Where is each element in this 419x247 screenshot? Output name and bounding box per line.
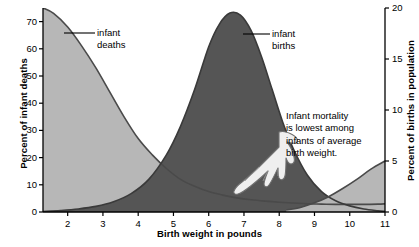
y-right-tick-label-5: 5 [392, 155, 412, 166]
infant-mortality-birth-weight-chart: Percent of infant deaths Percent of birt… [0, 0, 419, 247]
annotation-line2: is lowest among [286, 122, 390, 134]
x-tick-label-2: 2 [54, 218, 82, 229]
y-left-tick-label-10: 10 [9, 179, 37, 190]
y-axis-left-title: Percent of infant deaths [18, 39, 29, 189]
x-tick-label-4: 4 [124, 218, 152, 229]
callout-infant-births-line1: infant [272, 28, 295, 40]
x-tick-label-8: 8 [265, 218, 293, 229]
annotation-line3: infants of average [286, 135, 390, 147]
callout-infant-deaths: infant deaths [97, 27, 126, 50]
y-left-tick-label-70: 70 [9, 16, 37, 27]
y-left-tick-label-40: 40 [9, 97, 37, 108]
callout-infant-births-line2: births [272, 40, 295, 52]
x-tick-label-3: 3 [89, 218, 117, 229]
x-tick-label-9: 9 [300, 218, 328, 229]
y-left-tick-label-50: 50 [9, 70, 37, 81]
callout-infant-deaths-line1: infant [97, 27, 126, 39]
y-right-tick-label-0: 0 [392, 206, 412, 217]
y-right-tick-label-15: 15 [392, 53, 412, 64]
y-left-tick-label-20: 20 [9, 152, 37, 163]
y-left-tick-label-0: 0 [9, 206, 37, 217]
x-tick-label-6: 6 [195, 218, 223, 229]
callout-infant-births: infant births [272, 28, 295, 51]
x-tick-label-11: 11 [371, 218, 399, 229]
y-left-tick-label-60: 60 [9, 43, 37, 54]
annotation-line1: Infant mortality [286, 110, 390, 122]
y-right-tick-label-20: 20 [392, 2, 412, 13]
annotation-line4: birth weight. [286, 147, 390, 159]
callout-infant-deaths-line2: deaths [97, 39, 126, 51]
x-tick-label-10: 10 [336, 218, 364, 229]
x-tick-label-7: 7 [230, 218, 258, 229]
annotation-infant-mortality: Infant mortality is lowest among infants… [286, 110, 390, 160]
y-left-tick-label-30: 30 [9, 124, 37, 135]
x-tick-label-5: 5 [159, 218, 187, 229]
y-right-tick-label-10: 10 [392, 104, 412, 115]
x-axis-title: Birth weight in pounds [0, 228, 419, 239]
